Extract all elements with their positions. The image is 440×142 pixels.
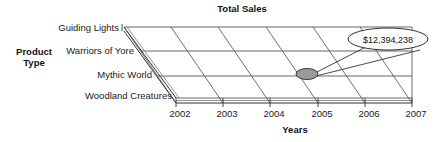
x-tick-label-2004: 2004 (263, 108, 284, 119)
category-label-warriors-of-yore: Warriors of Yore (66, 45, 134, 56)
x-tick-label-2005: 2005 (311, 108, 332, 119)
left-depth-edge-shadow (127, 27, 179, 98)
y-axis-title-line2: Type (23, 57, 44, 68)
category-label-mythic-world: Mythic World (97, 69, 152, 80)
x-tick-label-2002: 2002 (169, 108, 190, 119)
callout-value-label: $12,394,238 (363, 35, 413, 45)
category-label-woodland-creatures: Woodland Creatures (85, 90, 172, 101)
left-depth-edge (124, 27, 176, 98)
grid-year-line-2004 (218, 27, 270, 103)
chart-title: Total Sales (217, 3, 266, 14)
chart-container: Total Sales Product Type Years Guiding L… (0, 0, 440, 142)
x-axis-title: Years (282, 124, 307, 135)
x-tick-label-2007: 2007 (405, 108, 426, 119)
grid-year-line-2003 (171, 27, 223, 103)
data-point-marker-mythic-world-2005[interactable] (296, 69, 318, 80)
sales-3d-grid-chart: Total Sales Product Type Years Guiding L… (0, 0, 440, 142)
y-axis-title-line1: Product (16, 46, 53, 57)
grid-year-line-2005 (266, 27, 318, 103)
category-label-guiding-lights: Guiding Lights (58, 22, 119, 33)
x-tick-label-2003: 2003 (216, 108, 237, 119)
x-tick-label-2006: 2006 (358, 108, 379, 119)
